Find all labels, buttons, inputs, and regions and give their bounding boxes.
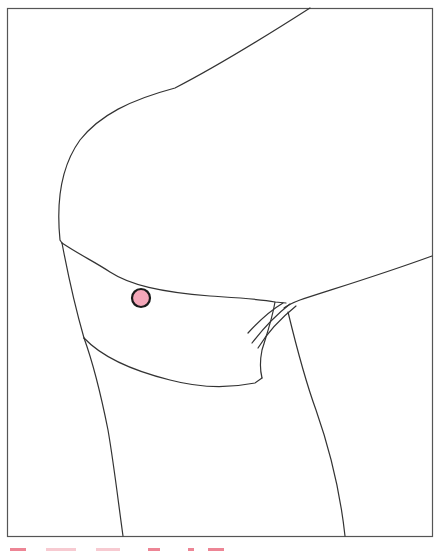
acupoint-marker: [132, 289, 150, 307]
figure-caption: [8, 544, 228, 551]
knee-diagram: [0, 0, 437, 551]
figure-frame: [8, 9, 433, 537]
